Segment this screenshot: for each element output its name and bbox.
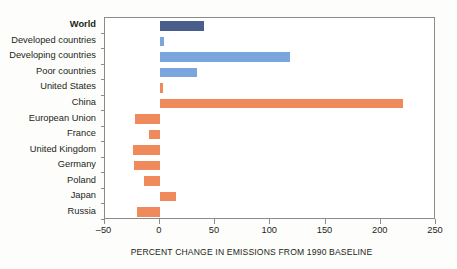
x-tick-label: 200 bbox=[372, 225, 388, 236]
bar bbox=[160, 68, 198, 78]
bar bbox=[160, 99, 403, 109]
plot-area bbox=[104, 17, 436, 219]
category-label: Developing countries bbox=[0, 50, 96, 61]
category-label: Germany bbox=[0, 159, 96, 170]
bar-row bbox=[105, 111, 435, 127]
x-tick bbox=[325, 219, 326, 224]
bar bbox=[137, 207, 160, 217]
x-tick-label: 150 bbox=[317, 225, 333, 236]
y-axis-category-labels: WorldDeveloped countriesDeveloping count… bbox=[0, 17, 100, 219]
x-axis-title: PERCENT CHANGE IN EMISSIONS FROM 1990 BA… bbox=[0, 247, 457, 257]
category-label: Russia bbox=[0, 206, 96, 217]
bar-row bbox=[105, 189, 435, 205]
x-tick bbox=[380, 219, 381, 224]
bar bbox=[160, 83, 163, 93]
bar-row bbox=[105, 204, 435, 220]
x-tick-label: 100 bbox=[261, 225, 277, 236]
bar bbox=[149, 130, 160, 140]
chart-figure: WorldDeveloped countriesDeveloping count… bbox=[0, 0, 457, 269]
bar bbox=[160, 37, 164, 47]
category-label: Japan bbox=[0, 190, 96, 201]
bar-row bbox=[105, 18, 435, 34]
bar-row bbox=[105, 142, 435, 158]
category-label: Poland bbox=[0, 175, 96, 186]
x-tick bbox=[104, 219, 105, 224]
category-label: Poor countries bbox=[0, 66, 96, 77]
category-label: United States bbox=[0, 81, 96, 92]
bar bbox=[133, 145, 160, 155]
x-tick bbox=[159, 219, 160, 224]
x-tick-label: 50 bbox=[209, 225, 219, 236]
bar-row bbox=[105, 127, 435, 143]
category-label: World bbox=[0, 19, 96, 30]
bar bbox=[160, 192, 177, 202]
category-label: European Union bbox=[0, 113, 96, 124]
bar bbox=[135, 114, 159, 124]
bar bbox=[144, 176, 159, 186]
bar-row bbox=[105, 96, 435, 112]
x-tick-label: –50 bbox=[96, 225, 112, 236]
category-label: China bbox=[0, 97, 96, 108]
x-tick bbox=[214, 219, 215, 224]
x-tick-label: 0 bbox=[156, 225, 161, 236]
x-tick bbox=[269, 219, 270, 224]
category-label: France bbox=[0, 128, 96, 139]
bar-row bbox=[105, 158, 435, 174]
x-tick bbox=[435, 219, 436, 224]
bar-row bbox=[105, 49, 435, 65]
bar-row bbox=[105, 34, 435, 50]
category-label: Developed countries bbox=[0, 35, 96, 46]
bar bbox=[160, 52, 290, 62]
category-label: United Kingdom bbox=[0, 144, 96, 155]
x-axis-title-text: PERCENT CHANGE IN EMISSIONS FROM 1990 BA… bbox=[85, 247, 373, 257]
bar bbox=[134, 161, 159, 171]
bar-row bbox=[105, 65, 435, 81]
bar-row bbox=[105, 173, 435, 189]
x-axis: –50050100150200250 bbox=[104, 219, 436, 249]
bar bbox=[160, 21, 204, 31]
bar-row bbox=[105, 80, 435, 96]
x-tick-label: 250 bbox=[427, 225, 443, 236]
